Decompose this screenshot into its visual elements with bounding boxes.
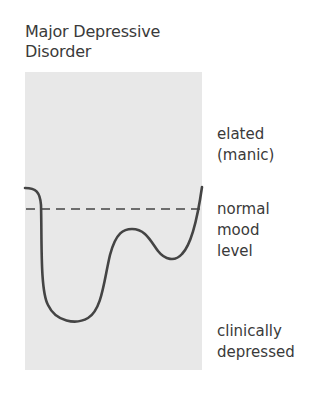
normal-line-1: normal — [217, 199, 270, 220]
depressed-line-1: clinically — [217, 321, 295, 342]
elated-label: elated (manic) — [217, 124, 274, 166]
normal-line-3: level — [217, 241, 270, 262]
elated-line-2: (manic) — [217, 145, 274, 166]
depressed-label: clinically depressed — [217, 321, 295, 363]
elated-line-1: elated — [217, 124, 274, 145]
normal-mood-label: normal mood level — [217, 199, 270, 262]
mood-curve — [25, 187, 202, 322]
depressed-line-2: depressed — [217, 342, 295, 363]
normal-line-2: mood — [217, 220, 270, 241]
